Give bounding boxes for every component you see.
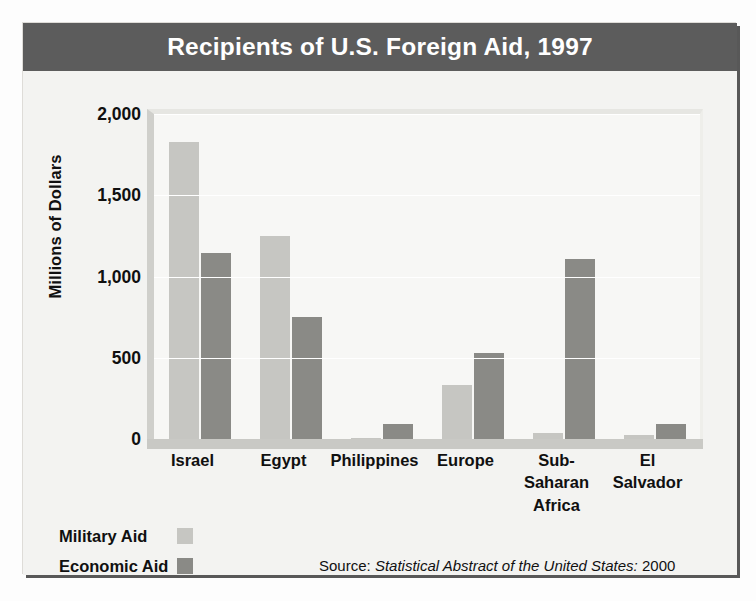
x-axis-label: Israel <box>147 449 238 471</box>
x-axis-label: Sub-SaharanAfrica <box>511 449 602 516</box>
y-tick-label: 1,000 <box>63 266 141 287</box>
military-swatch-icon <box>177 528 193 544</box>
gridline <box>154 114 700 115</box>
y-tick-label: 500 <box>63 347 141 368</box>
legend-label-economic: Economic Aid <box>59 557 177 576</box>
bar-economic <box>474 353 504 439</box>
bar-economic <box>292 317 322 439</box>
x-axis-label-line: Europe <box>420 449 511 471</box>
chart-card: Recipients of U.S. Foreign Aid, 1997 Mil… <box>22 22 736 574</box>
bar-economic <box>383 424 413 439</box>
gridline <box>154 277 700 278</box>
legend-item-military: Military Aid <box>59 521 399 551</box>
x-axis-label: Philippines <box>329 449 420 471</box>
bar-military <box>260 236 290 439</box>
x-axis-label: Egypt <box>238 449 329 471</box>
y-tick-label: 0 <box>63 429 141 450</box>
source-year: 2000 <box>638 557 676 574</box>
page-title: Recipients of U.S. Foreign Aid, 1997 <box>167 33 593 61</box>
source-title: Statistical Abstract of the United State… <box>375 557 638 574</box>
source-prefix: Source: <box>319 557 375 574</box>
x-axis-label-line: Sub-Saharan <box>511 449 602 494</box>
y-tick-label: 1,500 <box>63 185 141 206</box>
plot-inner <box>154 114 700 439</box>
x-axis-label-line: Salvador <box>602 471 693 493</box>
y-axis-title: Millions of Dollars <box>46 127 65 327</box>
axis-floor <box>147 439 703 449</box>
gridline <box>154 195 700 196</box>
x-axis-label-line: El <box>602 449 693 471</box>
x-axis-label-line: Africa <box>511 494 602 516</box>
legend-label-military: Military Aid <box>59 527 177 546</box>
x-axis-category-labels: IsraelEgyptPhilippinesEuropeSub-SaharanA… <box>147 449 703 509</box>
x-axis-label: ElSalvador <box>602 449 693 494</box>
x-axis-label-line: Israel <box>147 449 238 471</box>
x-axis-label-line: Egypt <box>238 449 329 471</box>
bar-economic <box>656 424 686 439</box>
x-axis-label-line: Philippines <box>329 449 420 471</box>
bar-military <box>442 385 472 439</box>
bar-military <box>169 142 199 439</box>
chart-title-bar: Recipients of U.S. Foreign Aid, 1997 <box>23 23 737 71</box>
x-axis-label: Europe <box>420 449 511 471</box>
chart-body: Millions of Dollars 05001,0001,5002,000 … <box>23 71 737 575</box>
y-tick-label: 2,000 <box>63 104 141 125</box>
y-axis-tick-labels: 05001,0001,5002,000 <box>63 109 141 433</box>
gridline <box>154 358 700 359</box>
economic-swatch-icon <box>177 558 193 574</box>
bar-economic <box>565 259 595 439</box>
source-note: Source: Statistical Abstract of the Unit… <box>319 557 675 574</box>
screenshot-root: Recipients of U.S. Foreign Aid, 1997 Mil… <box>0 0 756 601</box>
bar-economic <box>201 253 231 439</box>
plot-area <box>147 109 703 439</box>
